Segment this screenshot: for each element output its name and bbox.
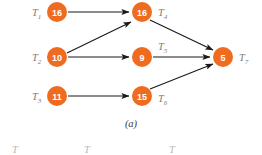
node-t1-label: T1 bbox=[32, 7, 41, 21]
node-t3[interactable]: 11 T3 bbox=[32, 86, 67, 106]
next-figure-label-2: T bbox=[84, 144, 91, 155]
node-t2[interactable]: 10 T2 bbox=[32, 47, 67, 67]
task-graph-figure: 16 T1 10 T2 11 T3 16 T4 9 T5 bbox=[0, 0, 262, 155]
figure-caption: (a) bbox=[125, 118, 138, 130]
node-t5[interactable]: 9 T5 bbox=[132, 41, 168, 67]
node-t1-value: 16 bbox=[52, 8, 62, 18]
node-t3-label: T3 bbox=[32, 91, 42, 105]
node-t3-value: 11 bbox=[52, 92, 62, 102]
edge-t2-t4 bbox=[67, 22, 131, 53]
node-t7-label: T7 bbox=[239, 52, 249, 66]
node-t2-label: T2 bbox=[32, 52, 42, 66]
node-t6[interactable]: 15 T6 bbox=[132, 86, 168, 107]
node-layer: 16 T1 10 T2 11 T3 16 T4 9 T5 bbox=[32, 2, 249, 107]
node-t1[interactable]: 16 T1 bbox=[32, 2, 67, 22]
node-t7-value: 5 bbox=[220, 53, 225, 63]
next-figure-label-3: T bbox=[169, 144, 176, 155]
node-t5-label: T5 bbox=[158, 41, 168, 55]
node-t4[interactable]: 16 T4 bbox=[132, 2, 168, 22]
node-t4-value: 16 bbox=[137, 8, 147, 18]
node-t5-value: 9 bbox=[139, 53, 144, 63]
node-t4-label: T4 bbox=[158, 7, 168, 21]
task-dependency-graph: 16 T1 10 T2 11 T3 16 T4 9 T5 bbox=[0, 0, 262, 155]
next-figure-partial-labels: T T T bbox=[12, 144, 176, 155]
next-figure-label-1: T bbox=[12, 144, 19, 155]
edge-t6-t7 bbox=[150, 64, 213, 89]
node-t7[interactable]: 5 T7 bbox=[213, 47, 249, 67]
node-t6-label: T6 bbox=[158, 93, 168, 107]
node-t2-value: 10 bbox=[52, 53, 62, 63]
node-t6-value: 15 bbox=[137, 92, 147, 102]
